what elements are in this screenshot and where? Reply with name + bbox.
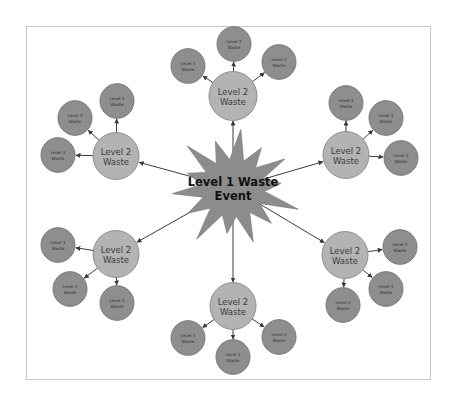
level2-node-upper-left-label-line1: Level 2 [101, 147, 132, 157]
level3-node-lower-left-1-label-line2: Waste [52, 246, 65, 251]
level3-node-top-3-label-line1: Level 3 [271, 57, 286, 62]
level3-node-upper-left-1: Level 3Waste [58, 101, 92, 136]
edge-bottom-to-l3-3 [252, 319, 264, 327]
level3-node-bottom-2: Level 3Waste [216, 340, 250, 375]
level2-node-top-label-line2: Waste [220, 97, 246, 107]
level3-node-lower-left-1: Level 3Waste [41, 228, 75, 263]
level3-node-upper-left-1-label-line2: Waste [69, 119, 82, 124]
level3-node-lower-left-2-label-line1: Level 3 [62, 284, 77, 289]
level3-node-upper-left-2-circle [100, 84, 134, 119]
level3-node-upper-left-1-circle [58, 101, 92, 136]
edge-upper-right-to-l3-2 [363, 130, 373, 139]
level3-node-lower-right-1-label-line1: Level 3 [392, 242, 407, 247]
edge-lower-left-to-l3-2 [84, 268, 97, 278]
waste-hierarchy-diagram: Level 1 Waste Event Level 2WasteLevel 3W… [0, 0, 454, 404]
level3-node-lower-right-2: Level 3Waste [369, 272, 403, 307]
level3-node-top-3-circle [262, 45, 296, 80]
level3-node-upper-right-3-circle [384, 141, 418, 176]
level3-node-upper-right-3-label-line1: Level 3 [393, 153, 408, 158]
level1-label-line1: Level 1 Waste [188, 175, 279, 189]
level3-node-top-2: Level 3Waste [217, 27, 251, 62]
edge-upper-left-to-l3-1 [88, 130, 99, 140]
level3-node-upper-left-3: Level 3Waste [41, 138, 75, 173]
level3-node-bottom-1-label-line1: Level 3 [180, 333, 195, 338]
level3-node-upper-left-2-label-line2: Waste [111, 102, 124, 107]
level2-node-upper-right: Level 2Waste [323, 132, 369, 179]
level3-node-lower-right-2-label-line1: Level 3 [378, 284, 393, 289]
level3-node-upper-right-3: Level 3Waste [384, 141, 418, 176]
level3-node-top-1: Level 3Waste [171, 49, 205, 84]
level3-node-upper-right-1-circle [329, 86, 363, 121]
level3-node-upper-right-2-label-line2: Waste [380, 119, 393, 124]
edge-upper-right-to-l3-3 [369, 156, 383, 157]
level2-node-lower-right-label-line2: Waste [332, 256, 358, 266]
level3-node-lower-right-3-label-line1: Level 3 [335, 300, 350, 305]
edge-center-to-lower-right [259, 203, 325, 242]
level3-node-lower-right-1: Level 3Waste [383, 230, 417, 265]
level3-node-top-2-circle [217, 27, 251, 62]
level3-node-upper-left-3-label-line1: Level 3 [50, 150, 65, 155]
level2-node-lower-left-label-line1: Level 2 [101, 245, 132, 255]
level2-node-upper-left: Level 2Waste [93, 133, 139, 180]
level3-node-lower-left-3-label-line2: Waste [111, 304, 124, 309]
level2-node-upper-right-label-line1: Level 2 [331, 146, 362, 156]
level2-node-lower-left-label-line2: Waste [103, 255, 129, 265]
level3-node-lower-right-1-label-line2: Waste [394, 248, 407, 253]
level3-node-upper-right-1-label-line1: Level 3 [338, 98, 353, 103]
level3-node-upper-left-3-circle [41, 138, 75, 173]
level3-node-top-1-label-line1: Level 3 [180, 61, 195, 66]
level2-node-top-label-line1: Level 2 [218, 87, 249, 97]
level3-node-lower-right-3-circle [326, 288, 360, 323]
level3-node-lower-right-3: Level 3Waste [326, 288, 360, 323]
level3-node-upper-left-1-label-line1: Level 3 [67, 113, 82, 118]
level2-node-bottom: Level 2Waste [210, 283, 256, 330]
level3-node-lower-left-1-circle [41, 228, 75, 263]
level2-node-lower-right-label-line1: Level 2 [330, 246, 361, 256]
level3-node-upper-right-2: Level 3Waste [369, 101, 403, 136]
level3-node-bottom-2-label-line2: Waste [227, 358, 240, 363]
level3-node-bottom-1: Level 3Waste [171, 321, 205, 356]
level3-node-bottom-2-label-line1: Level 3 [225, 352, 240, 357]
level3-node-upper-right-2-label-line1: Level 3 [378, 113, 393, 118]
level3-node-upper-left-2: Level 3Waste [100, 84, 134, 119]
level3-node-top-1-label-line2: Waste [182, 67, 195, 72]
level3-node-lower-left-3-circle [100, 286, 134, 321]
level3-node-lower-left-2-label-line2: Waste [64, 290, 77, 295]
level3-node-upper-right-1-label-line2: Waste [340, 104, 353, 109]
level2-node-top: Level 2Waste [209, 72, 257, 121]
level1-label-line2: Event [215, 189, 252, 203]
level2-node-upper-left-label-line2: Waste [103, 157, 129, 167]
level3-node-upper-right-3-label-line2: Waste [395, 159, 408, 164]
level3-node-bottom-1-circle [171, 321, 205, 356]
level3-node-lower-left-3: Level 3Waste [100, 286, 134, 321]
level1-event-node: Level 1 Waste Event [172, 130, 298, 242]
level3-node-upper-left-3-label-line2: Waste [52, 156, 65, 161]
level3-node-upper-left-2-label-line1: Level 3 [109, 96, 124, 101]
level3-node-lower-left-2-circle [53, 272, 87, 307]
level2-node-bottom-label-line1: Level 2 [218, 297, 249, 307]
level3-node-lower-right-2-circle [369, 272, 403, 307]
level3-node-upper-right-1: Level 3Waste [329, 86, 363, 121]
level3-node-top-2-label-line2: Waste [228, 45, 241, 50]
edge-lower-right-to-l3-1 [368, 250, 382, 252]
level3-node-top-3-label-line2: Waste [273, 63, 286, 68]
level3-node-lower-left-3-label-line1: Level 3 [109, 298, 124, 303]
level2-node-upper-right-label-line2: Waste [333, 156, 359, 166]
level3-node-bottom-3-circle [262, 320, 296, 355]
level3-node-bottom-2-circle [216, 340, 250, 375]
level3-node-bottom-3-label-line1: Level 3 [271, 332, 286, 337]
level3-node-lower-right-2-label-line2: Waste [380, 290, 393, 295]
edge-lower-right-to-l3-2 [363, 270, 372, 278]
level3-node-lower-left-2: Level 3Waste [53, 272, 87, 307]
level3-node-top-1-circle [171, 49, 205, 84]
level3-node-lower-right-1-circle [383, 230, 417, 265]
edge-top-to-l3-1 [203, 76, 213, 83]
edge-bottom-to-l3-1 [203, 319, 215, 327]
level2-node-lower-right: Level 2Waste [322, 232, 368, 279]
level3-node-lower-left-1-label-line1: Level 3 [50, 240, 65, 245]
level3-node-upper-right-2-circle [369, 101, 403, 136]
level3-node-top-3: Level 3Waste [262, 45, 296, 80]
edge-lower-left-to-l3-1 [76, 248, 93, 251]
level3-node-top-2-label-line1: Level 3 [226, 39, 241, 44]
level3-node-bottom-1-label-line2: Waste [182, 339, 195, 344]
